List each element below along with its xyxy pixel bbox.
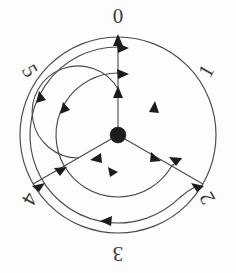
arrow-head-right-upper bbox=[149, 101, 159, 113]
spiral-orbit-diagram: 0 1 2 3 4 5 bbox=[0, 0, 236, 273]
spiral-link-outer bbox=[180, 186, 196, 197]
center-hub-dot bbox=[110, 127, 126, 143]
sector-label-5: 5 bbox=[17, 60, 43, 81]
sector-label-0: 0 bbox=[113, 4, 124, 28]
figure-root: 0 1 2 3 4 5 bbox=[0, 0, 236, 273]
ring-arc-inner bbox=[32, 66, 118, 158]
spoke-line-lower-left bbox=[33, 135, 118, 184]
arrow-head-up-second bbox=[117, 43, 129, 53]
arrow-head-bottom bbox=[100, 216, 112, 226]
arrow-head-up-third bbox=[117, 69, 129, 79]
arrow-head-inner-bottom bbox=[108, 167, 118, 177]
arrow-head-ll-inner bbox=[90, 153, 102, 163]
arrow-head-ll-mid bbox=[54, 167, 67, 176]
sector-label-1: 1 bbox=[193, 60, 219, 81]
arrow-head-up-inner bbox=[113, 86, 123, 98]
arrow-head-lr-mid bbox=[169, 157, 182, 166]
sector-label-3: 3 bbox=[113, 242, 124, 266]
arrow-head-lr-inner bbox=[150, 152, 161, 162]
spoke-line-lower-right bbox=[118, 135, 203, 184]
